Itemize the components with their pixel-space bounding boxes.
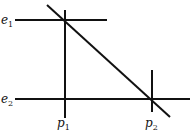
diagram-canvas: e1 e2 p1 p2 (0, 0, 190, 135)
label-p1: p1 (57, 116, 70, 132)
label-e1: e1 (1, 13, 13, 29)
label-e2: e2 (1, 92, 13, 108)
label-p2: p2 (145, 116, 158, 132)
